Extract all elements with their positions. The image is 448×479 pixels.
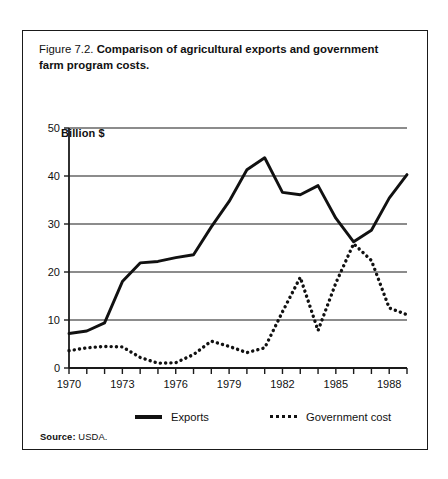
svg-text:1979: 1979 <box>217 378 241 390</box>
legend-item-government-cost: Government cost <box>270 411 391 423</box>
y-axis-tick-labels: 01020304050 <box>48 122 60 374</box>
legend-label-government-cost: Government cost <box>306 411 391 423</box>
chart-svg: 01020304050 1970197319761979198219851988 <box>23 31 429 451</box>
svg-text:50: 50 <box>48 122 60 134</box>
data-series <box>69 158 407 363</box>
legend-swatch-solid-icon <box>135 415 162 418</box>
x-axis-tick-labels: 1970197319761979198219851988 <box>57 378 402 390</box>
source-note: Source: USDA. <box>40 431 107 442</box>
svg-text:20: 20 <box>48 266 60 278</box>
figure-frame: Figure 7.2. Comparison of agricultural e… <box>22 30 428 450</box>
source-label: Source: <box>40 431 76 442</box>
svg-text:1970: 1970 <box>57 378 81 390</box>
svg-text:1982: 1982 <box>270 378 294 390</box>
axis-lines <box>69 128 407 368</box>
svg-text:0: 0 <box>54 362 60 374</box>
legend-swatch-dotted-icon <box>270 415 297 418</box>
source-value: USDA. <box>78 431 107 442</box>
svg-text:1988: 1988 <box>377 378 401 390</box>
plot-area: 01020304050 1970197319761979198219851988 <box>23 31 429 451</box>
svg-text:10: 10 <box>48 314 60 326</box>
legend: Exports Government cost <box>63 409 393 431</box>
svg-text:1973: 1973 <box>110 378 134 390</box>
svg-text:30: 30 <box>48 218 60 230</box>
legend-item-exports: Exports <box>135 411 209 423</box>
legend-label-exports: Exports <box>171 411 209 423</box>
svg-text:1976: 1976 <box>163 378 187 390</box>
svg-text:1985: 1985 <box>324 378 348 390</box>
svg-text:40: 40 <box>48 170 60 182</box>
